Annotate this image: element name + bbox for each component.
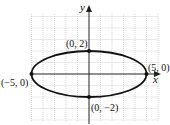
- point-label-left: (−5, 0): [1, 77, 28, 89]
- point-label-top: (0, 2): [66, 38, 88, 50]
- y-axis-label: y: [79, 1, 85, 13]
- point-label-right: (5, 0): [148, 62, 170, 74]
- point-label-bottom: (0, −2): [91, 102, 118, 114]
- y-axis-arrow-icon: [86, 5, 92, 12]
- x-axis-label: x: [152, 73, 158, 85]
- ellipse-graph: y x (0, 2) (0, −2) (−5, 0) (5, 0): [0, 0, 170, 125]
